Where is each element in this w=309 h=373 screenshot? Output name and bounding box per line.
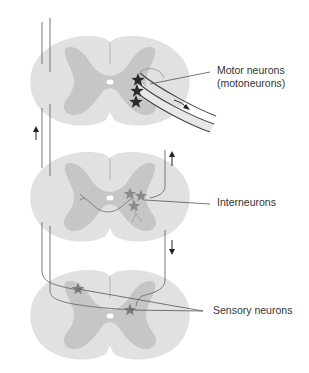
- interneurons-label: Interneurons: [217, 196, 276, 209]
- spinal-cord-section-middle: [30, 152, 189, 242]
- motor-neurons-label-line2: (motoneurons): [217, 77, 285, 90]
- right-down-arrow: [169, 240, 175, 255]
- motor-neurons-label: Motor neurons (motoneurons): [217, 64, 285, 89]
- left-up-arrow: [33, 126, 39, 140]
- sensory-neurons-label: Sensory neurons: [213, 304, 292, 317]
- motor-neurons-label-line1: Motor neurons: [217, 64, 285, 77]
- spinal-cord-section-bottom: [30, 270, 189, 360]
- spinal-cord-diagram: [0, 0, 309, 373]
